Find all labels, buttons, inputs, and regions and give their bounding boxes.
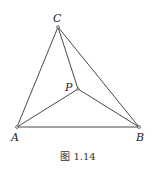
point-A	[16, 126, 19, 129]
segment-CA	[17, 27, 58, 127]
point-C	[57, 26, 60, 29]
point-P	[77, 88, 79, 90]
label-C: C	[53, 12, 62, 25]
segment-PC	[58, 27, 78, 89]
point-B	[138, 126, 141, 129]
segment-PB	[78, 89, 139, 127]
label-P: P	[64, 81, 73, 94]
segment-PA	[17, 89, 78, 127]
segment-BC	[58, 27, 139, 127]
geometry-figure: C P A B 图 1.14	[0, 0, 155, 171]
figure-caption: 图 1.14	[60, 151, 95, 162]
label-A: A	[10, 131, 19, 144]
label-B: B	[135, 131, 144, 144]
